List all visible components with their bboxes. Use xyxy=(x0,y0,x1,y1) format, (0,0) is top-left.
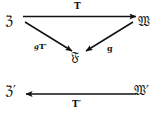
commutative-diagram: ℨ 𝔚 𝔉 ℨ′ 𝔚′ T gT′ g T′ xyxy=(0,0,160,119)
edge-arrow-gtprime xyxy=(25,22,72,51)
node-object-w-prime: 𝔚′ xyxy=(134,84,149,97)
edge-label-tprime-mark: ′ xyxy=(79,99,81,109)
edge-label-g-t-prime: gT′ xyxy=(34,42,47,50)
edge-label-t-prime-mark: ′ xyxy=(45,41,47,51)
node-object-v-prime: ℨ′ xyxy=(5,84,16,97)
node-object-w: 𝔚 xyxy=(138,15,150,28)
edge-label-t: T xyxy=(74,2,81,11)
node-object-v: ℨ xyxy=(5,14,13,27)
node-object-f: 𝔉 xyxy=(71,50,79,63)
edge-label-g: g xyxy=(107,44,113,52)
edge-label-tprime-main: T xyxy=(72,99,79,109)
edge-label-t-prime: T′ xyxy=(72,100,81,109)
